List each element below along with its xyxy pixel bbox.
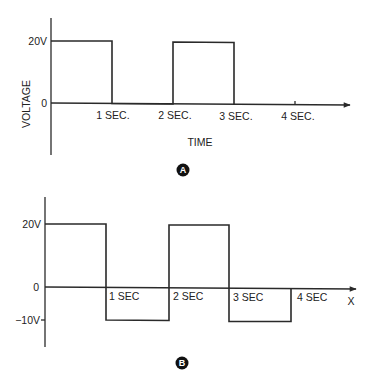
y-tick-minus10v: −10V — [15, 314, 40, 326]
x-axis-arrow — [45, 287, 356, 289]
diagram-canvas: 20V 0 VOLTAGE 1 SEC. 2 SEC. 3 SEC. 4 SEC… — [0, 0, 379, 372]
waveform-b — [45, 224, 291, 322]
badge-a: A — [177, 164, 190, 177]
y-tick-0: 0 — [41, 97, 47, 109]
x-tick-label-4: 4 SEC — [297, 291, 328, 303]
x-tick-label-2: 2 SEC — [173, 290, 204, 302]
x-tick-label-3: 3 SEC — [233, 291, 264, 303]
y-axis-label: VOLTAGE — [20, 80, 32, 128]
x-tick-label-1: 1 SEC. — [96, 109, 129, 121]
x-tick-label-2: 2 SEC. — [158, 109, 191, 121]
waveform-a — [51, 41, 234, 105]
x-tick-label-3: 3 SEC. — [219, 110, 252, 122]
badge-b-text: B — [179, 358, 186, 368]
x-axis-arrow — [51, 103, 350, 105]
diagram-a: 20V 0 VOLTAGE 1 SEC. 2 SEC. 3 SEC. 4 SEC… — [20, 18, 350, 177]
y-tick-20v: 20V — [28, 35, 47, 47]
diagram-b: 20V 0 −10V 1 SEC 2 SEC 3 SEC 4 SEC X B — [15, 197, 356, 370]
badge-b: B — [176, 357, 189, 370]
y-tick-20v: 20V — [22, 218, 41, 230]
x-axis-label: TIME — [187, 136, 212, 148]
x-tick-label-1: 1 SEC — [109, 290, 140, 302]
badge-a-text: A — [180, 165, 187, 175]
x-axis-label: X — [347, 295, 354, 307]
x-tick-label-4: 4 SEC. — [281, 110, 314, 122]
y-tick-0: 0 — [33, 281, 39, 293]
